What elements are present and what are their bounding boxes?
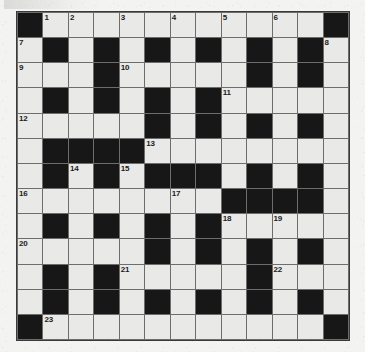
crossword-letter-cell[interactable] <box>196 315 220 339</box>
crossword-letter-cell[interactable] <box>120 38 144 62</box>
crossword-letter-cell[interactable] <box>222 315 246 339</box>
crossword-letter-cell[interactable] <box>120 114 144 138</box>
crossword-letter-cell[interactable] <box>298 13 322 37</box>
crossword-letter-cell[interactable] <box>171 63 195 87</box>
crossword-letter-cell[interactable]: 2 <box>69 13 93 37</box>
crossword-letter-cell[interactable] <box>43 239 67 263</box>
crossword-letter-cell[interactable] <box>69 315 93 339</box>
crossword-letter-cell[interactable] <box>222 139 246 163</box>
crossword-letter-cell[interactable] <box>171 214 195 238</box>
crossword-letter-cell[interactable] <box>69 265 93 289</box>
crossword-letter-cell[interactable] <box>273 164 297 188</box>
crossword-letter-cell[interactable] <box>222 239 246 263</box>
crossword-letter-cell[interactable] <box>94 114 118 138</box>
crossword-letter-cell[interactable] <box>171 239 195 263</box>
crossword-letter-cell[interactable] <box>171 315 195 339</box>
crossword-letter-cell[interactable] <box>273 139 297 163</box>
crossword-letter-cell[interactable] <box>94 315 118 339</box>
crossword-letter-cell[interactable] <box>196 13 220 37</box>
crossword-letter-cell[interactable] <box>69 239 93 263</box>
crossword-letter-cell[interactable] <box>18 139 42 163</box>
crossword-letter-cell[interactable] <box>69 63 93 87</box>
crossword-letter-cell[interactable]: 3 <box>120 13 144 37</box>
crossword-letter-cell[interactable] <box>120 239 144 263</box>
crossword-letter-cell[interactable]: 20 <box>18 239 42 263</box>
crossword-letter-cell[interactable]: 15 <box>120 164 144 188</box>
crossword-letter-cell[interactable] <box>273 114 297 138</box>
crossword-letter-cell[interactable] <box>18 164 42 188</box>
crossword-letter-cell[interactable] <box>94 239 118 263</box>
crossword-letter-cell[interactable] <box>298 139 322 163</box>
crossword-letter-cell[interactable] <box>247 88 271 112</box>
crossword-letter-cell[interactable] <box>324 139 348 163</box>
crossword-letter-cell[interactable]: 5 <box>222 13 246 37</box>
crossword-letter-cell[interactable] <box>171 265 195 289</box>
crossword-letter-cell[interactable] <box>145 265 169 289</box>
crossword-letter-cell[interactable] <box>43 63 67 87</box>
crossword-letter-cell[interactable] <box>69 189 93 213</box>
crossword-letter-cell[interactable] <box>324 114 348 138</box>
crossword-letter-cell[interactable] <box>171 114 195 138</box>
crossword-letter-cell[interactable] <box>298 214 322 238</box>
crossword-letter-cell[interactable] <box>94 13 118 37</box>
crossword-letter-cell[interactable] <box>18 214 42 238</box>
crossword-letter-cell[interactable] <box>324 290 348 314</box>
crossword-letter-cell[interactable]: 13 <box>145 139 169 163</box>
crossword-letter-cell[interactable]: 12 <box>18 114 42 138</box>
crossword-letter-cell[interactable] <box>171 139 195 163</box>
crossword-letter-cell[interactable]: 1 <box>43 13 67 37</box>
crossword-letter-cell[interactable] <box>145 189 169 213</box>
crossword-letter-cell[interactable] <box>18 88 42 112</box>
crossword-letter-cell[interactable]: 16 <box>18 189 42 213</box>
crossword-letter-cell[interactable] <box>247 139 271 163</box>
crossword-letter-cell[interactable]: 7 <box>18 38 42 62</box>
crossword-letter-cell[interactable] <box>43 189 67 213</box>
crossword-letter-cell[interactable]: 14 <box>69 164 93 188</box>
crossword-letter-cell[interactable] <box>69 290 93 314</box>
crossword-letter-cell[interactable] <box>171 38 195 62</box>
crossword-letter-cell[interactable] <box>324 265 348 289</box>
crossword-letter-cell[interactable] <box>196 189 220 213</box>
crossword-letter-cell[interactable] <box>324 189 348 213</box>
crossword-letter-cell[interactable] <box>222 63 246 87</box>
crossword-letter-cell[interactable]: 22 <box>273 265 297 289</box>
crossword-letter-cell[interactable] <box>120 290 144 314</box>
crossword-letter-cell[interactable] <box>324 88 348 112</box>
crossword-letter-cell[interactable] <box>273 38 297 62</box>
crossword-letter-cell[interactable] <box>222 164 246 188</box>
crossword-letter-cell[interactable] <box>196 63 220 87</box>
crossword-letter-cell[interactable]: 10 <box>120 63 144 87</box>
crossword-letter-cell[interactable] <box>120 189 144 213</box>
crossword-letter-cell[interactable] <box>145 315 169 339</box>
crossword-letter-cell[interactable] <box>69 214 93 238</box>
crossword-letter-cell[interactable] <box>94 189 118 213</box>
crossword-letter-cell[interactable] <box>196 139 220 163</box>
crossword-letter-cell[interactable] <box>69 114 93 138</box>
crossword-letter-cell[interactable] <box>273 239 297 263</box>
crossword-letter-cell[interactable] <box>247 315 271 339</box>
crossword-letter-cell[interactable] <box>298 88 322 112</box>
crossword-letter-cell[interactable] <box>298 315 322 339</box>
crossword-letter-cell[interactable] <box>298 265 322 289</box>
crossword-letter-cell[interactable]: 17 <box>171 189 195 213</box>
crossword-letter-cell[interactable] <box>171 88 195 112</box>
crossword-letter-cell[interactable] <box>222 265 246 289</box>
crossword-letter-cell[interactable] <box>43 114 67 138</box>
crossword-letter-cell[interactable]: 8 <box>324 38 348 62</box>
crossword-letter-cell[interactable] <box>120 88 144 112</box>
crossword-letter-cell[interactable]: 4 <box>171 13 195 37</box>
crossword-letter-cell[interactable]: 6 <box>273 13 297 37</box>
crossword-letter-cell[interactable] <box>120 214 144 238</box>
crossword-letter-cell[interactable] <box>324 214 348 238</box>
crossword-letter-cell[interactable]: 9 <box>18 63 42 87</box>
crossword-letter-cell[interactable] <box>324 63 348 87</box>
crossword-letter-cell[interactable] <box>247 214 271 238</box>
crossword-letter-cell[interactable] <box>324 164 348 188</box>
crossword-letter-cell[interactable]: 11 <box>222 88 246 112</box>
crossword-letter-cell[interactable] <box>69 38 93 62</box>
crossword-letter-cell[interactable] <box>171 290 195 314</box>
crossword-letter-cell[interactable] <box>18 265 42 289</box>
crossword-letter-cell[interactable] <box>69 88 93 112</box>
crossword-letter-cell[interactable] <box>273 290 297 314</box>
crossword-letter-cell[interactable] <box>247 13 271 37</box>
